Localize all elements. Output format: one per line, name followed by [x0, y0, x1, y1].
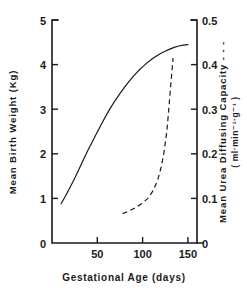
x-ticklabel-100: 100 [133, 248, 151, 260]
x-ticklabel-150: 150 [179, 248, 197, 260]
x-axis-ticks [97, 237, 188, 243]
y2-axis-units: ( ml·min⁻¹·g⁻¹ ) [230, 96, 240, 168]
series-mean-birth-weight [61, 45, 188, 204]
y-ticklabel-4: 4 [40, 59, 47, 71]
y2-ticklabel-0-2: 0.2 [202, 148, 217, 160]
y-ticklabel-1: 1 [40, 193, 46, 205]
x-axis-title: Gestational Age (days) [62, 272, 185, 283]
y2-ticklabel-0-3: 0.3 [202, 104, 217, 116]
y2-ticklabel-0-5: 0.5 [202, 15, 217, 27]
y-ticklabel-5: 5 [40, 15, 46, 27]
x-ticklabel-50: 50 [91, 248, 103, 260]
y-ticklabel-2: 2 [40, 148, 46, 160]
y-ticklabel-0: 0 [40, 238, 46, 250]
y-ticklabel-3: 3 [40, 104, 46, 116]
left-and-bottom-axis-spine [52, 20, 197, 243]
x-axis-tick-labels: 50 100 150 [91, 248, 197, 260]
right-axis-ticks [191, 20, 197, 198]
left-axis-tick-labels: 5 4 3 2 1 0 [40, 15, 47, 250]
y2-ticklabel-0: 0 [202, 238, 208, 250]
right-axis-spine [191, 20, 203, 243]
left-axis-ticks [52, 20, 58, 198]
y2-ticklabel-0-4: 0.4 [202, 59, 218, 71]
y-axis-title: Mean Birth Weight (Kg) [7, 70, 18, 195]
right-axis-tick-labels: 0.5 0.4 0.3 0.2 0.1 0 [202, 15, 218, 250]
series-mean-urea-diffusing-capacity [123, 58, 174, 214]
y2-axis-title: Mean Urea Diffusing Capacity - - - [217, 41, 228, 223]
chart-plot-area: 5 4 3 2 1 0 0.5 0.4 0.3 0.2 0.1 0 50 100… [0, 0, 247, 296]
y2-ticklabel-0-1: 0.1 [202, 193, 217, 205]
chart-figure: 5 4 3 2 1 0 0.5 0.4 0.3 0.2 0.1 0 50 100… [0, 0, 247, 296]
